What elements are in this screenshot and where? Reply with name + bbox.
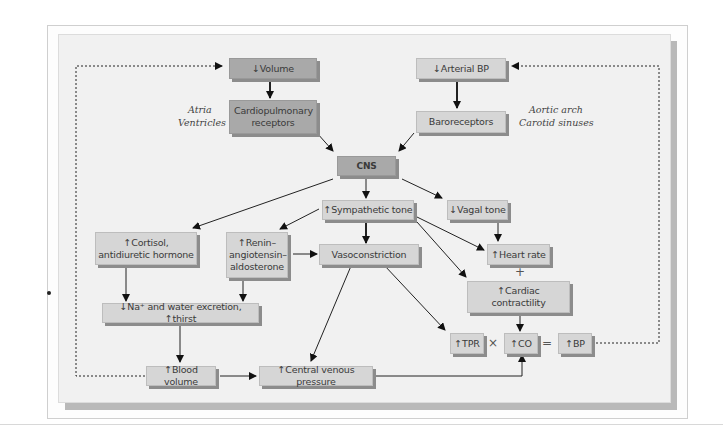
node-decreased-na-water-excretion: ↓Na⁺ and water excretion, ↑thirst: [102, 303, 259, 323]
node-label: ↑Cardiac contractility: [484, 285, 554, 309]
node-label: ↓Volume: [252, 63, 294, 75]
node-label: ↑Heart rate: [491, 249, 546, 261]
node-label: Baroreceptors: [429, 116, 493, 128]
node-cns: CNS: [337, 156, 396, 176]
times-operator: ×: [488, 336, 498, 350]
node-label: ↑TPR: [454, 338, 479, 350]
label-ventricles: Ventricles: [178, 116, 226, 129]
page-divider: [0, 424, 723, 425]
label-aortic-arch: Aortic arch: [529, 103, 583, 116]
node-baroreceptors: Baroreceptors: [416, 111, 506, 133]
node-label: ↑Cortisol, antidiuretic hormone: [98, 237, 194, 261]
node-increased-heart-rate: ↑Heart rate: [487, 244, 550, 265]
node-increased-central-venous-pressure: ↑Central venous pressure: [259, 366, 373, 386]
node-label: Vasoconstriction: [332, 249, 407, 261]
bullet-dot: [47, 291, 51, 295]
node-increased-cortisol-adh: ↑Cortisol, antidiuretic hormone: [95, 232, 197, 265]
node-cardiopulmonary-receptors: Cardiopulmonary receptors: [229, 100, 317, 134]
node-label: ↓Na⁺ and water excretion, ↑thirst: [103, 301, 258, 325]
label-atria: Atria: [188, 103, 212, 116]
node-label: ↑BP: [565, 338, 585, 350]
node-decreased-volume: ↓Volume: [229, 58, 317, 79]
node-label: ↑Sympathetic tone: [324, 204, 413, 216]
node-increased-bp: ↑BP: [558, 333, 592, 354]
node-label: ↑Renin– angiotensin– aldosterone: [229, 237, 285, 273]
equals-operator: =: [542, 336, 552, 350]
node-label: ↓Arterial BP: [433, 63, 489, 75]
node-increased-sympathetic-tone: ↑Sympathetic tone: [322, 200, 414, 220]
node-increased-renin-angiotensin-aldosterone: ↑Renin– angiotensin– aldosterone: [226, 232, 288, 278]
node-label: ↑Central venous pressure: [260, 364, 372, 388]
node-increased-blood-volume: ↑Blood volume: [146, 366, 216, 386]
node-increased-tpr: ↑TPR: [450, 333, 484, 354]
node-label: CNS: [356, 160, 376, 172]
node-label: ↓Vagal tone: [449, 204, 505, 216]
node-increased-cardiac-contractility: ↑Cardiac contractility: [467, 281, 570, 313]
node-label: ↑Blood volume: [147, 364, 215, 388]
node-label: Cardiopulmonary receptors: [234, 105, 312, 129]
label-carotid-sinuses: Carotid sinuses: [519, 116, 594, 129]
node-decreased-vagal-tone: ↓Vagal tone: [447, 200, 508, 220]
node-vasoconstriction: Vasoconstriction: [319, 244, 419, 265]
node-increased-co: ↑CO: [504, 333, 538, 354]
node-decreased-arterial-bp: ↓Arterial BP: [416, 58, 506, 79]
node-label: ↑CO: [510, 338, 531, 350]
plus-operator: +: [515, 265, 525, 279]
